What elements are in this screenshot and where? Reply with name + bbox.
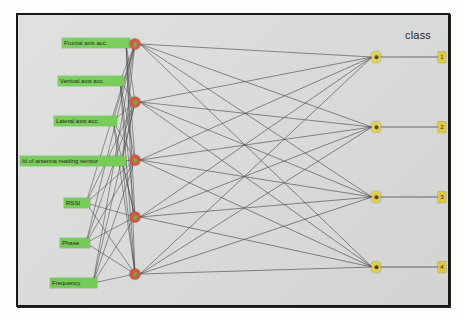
- input-label-3: Lateral axis acc.: [54, 116, 117, 126]
- edge-input6-hidden5: [86, 243, 135, 274]
- class-chip-4: 4: [438, 262, 446, 273]
- hidden-node-3: [130, 155, 141, 166]
- figure-canvas: Frontal axis acc.Vertical axis acc.Later…: [0, 0, 466, 322]
- output-node-1: [372, 52, 381, 63]
- edge-input6-hidden4: [86, 217, 135, 243]
- class-chip-1: 1: [438, 52, 446, 63]
- edges-output-to-class: [380, 57, 438, 267]
- edge-hidden2-output1: [140, 57, 372, 102]
- edge-input6-hidden1: [86, 44, 135, 243]
- edge-hidden1-output3: [140, 44, 372, 197]
- class-chip-3: 3: [438, 192, 446, 203]
- edge-hidden5-output4: [140, 267, 372, 274]
- input-label-4: Id of antenna reading sensor: [20, 156, 126, 166]
- edge-hidden3-output4: [140, 160, 372, 267]
- input-label-5: RSSI: [64, 198, 90, 208]
- input-label-6: Phase: [60, 238, 90, 248]
- output-node-4: [372, 262, 381, 273]
- edge-hidden2-output3: [140, 102, 372, 197]
- hidden-node-1: [130, 39, 141, 50]
- edge-hidden4-output3: [140, 197, 372, 217]
- input-label-1: Frontal axis acc.: [62, 38, 130, 48]
- network-diagram-frame: Frontal axis acc.Vertical axis acc.Later…: [16, 13, 450, 307]
- class-title-label: class: [405, 29, 431, 41]
- edge-hidden5-output3: [140, 197, 372, 274]
- edge-hidden1-output4: [140, 44, 372, 267]
- edge-hidden3-output2: [140, 127, 372, 160]
- edge-hidden3-output1: [140, 57, 372, 160]
- hidden-node-2: [130, 97, 141, 108]
- input-label-2: Vertical axis acc.: [58, 76, 124, 86]
- input-label-7: Frequency: [50, 278, 97, 288]
- edge-hidden4-output2: [140, 127, 372, 217]
- edge-hidden1-output1: [140, 44, 372, 57]
- output-node-3: [372, 192, 381, 203]
- hidden-node-5: [130, 269, 141, 280]
- edges-hidden-to-output: [140, 44, 372, 274]
- edge-hidden5-output2: [140, 127, 372, 274]
- hidden-node-4: [130, 212, 141, 223]
- output-node-2: [372, 122, 381, 133]
- edge-hidden4-output1: [140, 57, 372, 217]
- class-chip-2: 2: [438, 122, 446, 133]
